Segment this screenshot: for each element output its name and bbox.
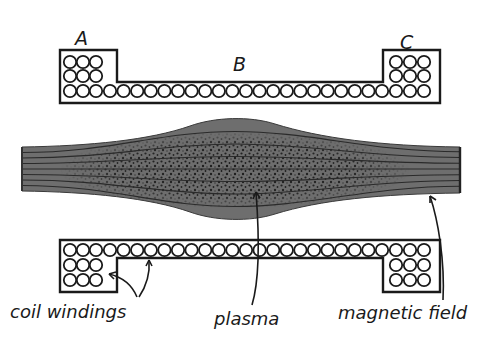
- coil-label-b: B: [233, 55, 246, 74]
- top-coil: [60, 50, 440, 103]
- coil-windings-label: coil windings: [10, 303, 126, 321]
- bottom-coil: [60, 240, 440, 292]
- magnetic-field-label: magnetic field: [338, 304, 467, 322]
- coil-label-c: C: [400, 33, 413, 52]
- coil-windings-arrow-right: [139, 260, 149, 297]
- plasma-label: plasma: [214, 310, 279, 328]
- plasma-column: [20, 110, 465, 230]
- magnetic-mirror-diagram: A B C coil windings plasma magnetic fiel…: [0, 0, 486, 344]
- coil-label-a: A: [75, 29, 88, 48]
